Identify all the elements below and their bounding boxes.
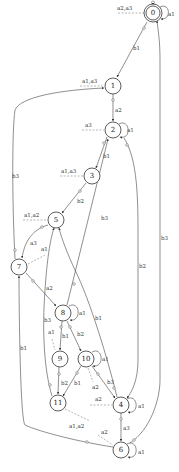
transition-6-6: a1 <box>127 443 145 457</box>
transition-8-10: b2 <box>67 321 84 351</box>
svg-text:b3: b3 <box>44 317 52 323</box>
svg-text:b3: b3 <box>101 215 109 221</box>
svg-text:a2,a3: a2,a3 <box>117 5 133 11</box>
svg-text:11: 11 <box>54 399 63 407</box>
observation-0: a2,a3 <box>117 5 144 13</box>
svg-text:0: 0 <box>151 9 155 17</box>
svg-text:4: 4 <box>119 401 124 409</box>
svg-text:6: 6 <box>119 446 124 454</box>
svg-text:b2: b2 <box>139 263 146 269</box>
transition-11-5: b3 <box>44 228 54 396</box>
svg-text:b1: b1 <box>20 345 27 351</box>
observation-10: a2 <box>88 368 99 390</box>
state-4: 4 <box>113 397 129 413</box>
state-7: 7 <box>11 259 27 275</box>
svg-text:a1,a2: a1,a2 <box>69 423 84 429</box>
transition-10-4: b3 <box>92 366 115 398</box>
transition-5-7: a3 <box>22 225 48 258</box>
observation-2: a3 <box>82 122 104 130</box>
svg-text:8: 8 <box>61 309 65 317</box>
svg-text:a1: a1 <box>168 11 175 17</box>
observation-5: a1,a2 <box>23 212 47 220</box>
svg-text:10: 10 <box>82 355 91 363</box>
observation-4: a2 <box>90 396 112 405</box>
state-5: 5 <box>48 212 64 228</box>
state-6: 6 <box>113 442 129 458</box>
state-8: 8 <box>55 305 71 321</box>
svg-text:a1: a1 <box>138 403 145 409</box>
transition-10-10: a1 <box>92 351 109 366</box>
transition-3-5: b2 <box>62 183 86 213</box>
svg-text:a1,a2: a1,a2 <box>24 212 39 218</box>
svg-text:b1: b1 <box>62 333 69 339</box>
svg-text:a1: a1 <box>79 310 86 316</box>
state-10: 10 <box>78 351 94 367</box>
observation-11: a1,a2 <box>65 409 90 429</box>
transition-4-6: a3 <box>120 413 131 441</box>
svg-text:b3: b3 <box>12 173 20 179</box>
transition-2-3: b1 <box>96 137 110 168</box>
transition-4-4: a1 <box>127 398 145 412</box>
observation-1: a1,a3 <box>80 78 104 86</box>
state-1: 1 <box>105 78 121 94</box>
svg-text:7: 7 <box>17 263 21 271</box>
svg-text:b1: b1 <box>95 315 102 321</box>
svg-text:b2: b2 <box>61 380 68 386</box>
transition-0-1: b1 <box>117 22 147 77</box>
svg-text:a2: a2 <box>101 429 108 435</box>
observation-7: a1 <box>28 246 48 264</box>
svg-text:b3: b3 <box>161 235 169 241</box>
svg-text:b2: b2 <box>77 198 84 204</box>
svg-text:b2: b2 <box>77 331 84 337</box>
state-0: 0 <box>144 4 162 22</box>
svg-text:a3: a3 <box>123 425 130 431</box>
transition-8-2: b3 <box>67 139 109 305</box>
state-9: 9 <box>52 351 68 367</box>
svg-text:a3: a3 <box>85 122 92 128</box>
observation-9: a1 <box>48 329 55 350</box>
svg-text:a3: a3 <box>30 240 37 246</box>
transition-8-9: b1 <box>60 321 69 350</box>
svg-text:b1: b1 <box>133 45 140 51</box>
svg-text:a1: a1 <box>138 449 145 455</box>
svg-text:1: 1 <box>111 82 115 90</box>
transition-7-8: a2 <box>26 273 56 306</box>
svg-text:3: 3 <box>90 172 94 180</box>
transition-8-8: a1 <box>69 305 86 320</box>
transition-2-4: b2 <box>124 138 146 398</box>
svg-text:b1: b1 <box>74 380 81 386</box>
state-11: 11 <box>50 395 66 411</box>
svg-text:a2: a2 <box>46 285 53 291</box>
svg-text:5: 5 <box>54 216 58 224</box>
state-3: 3 <box>84 168 100 184</box>
svg-text:9: 9 <box>58 355 62 363</box>
svg-text:a1: a1 <box>41 246 48 252</box>
svg-text:a2: a2 <box>115 107 122 113</box>
svg-text:a1: a1 <box>127 127 134 133</box>
svg-text:2: 2 <box>111 126 115 134</box>
svg-text:a1: a1 <box>48 329 55 335</box>
svg-text:a1,a3: a1,a3 <box>61 168 77 174</box>
transition-1-2: a2 <box>112 94 122 121</box>
state-2: 2 <box>105 122 121 138</box>
svg-text:a1,a3: a1,a3 <box>82 78 98 84</box>
observation-3: a1,a3 <box>60 168 83 176</box>
svg-text:a2: a2 <box>92 384 99 390</box>
svg-text:a2: a2 <box>95 396 102 402</box>
observation-6: a2 <box>98 429 113 445</box>
state-diagram: a1 b1 a2 a1 b1 b2 b2 a3 b3 <box>0 0 179 472</box>
